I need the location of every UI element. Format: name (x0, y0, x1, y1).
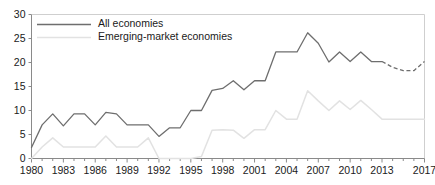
data-series-layer (32, 33, 425, 159)
series-line-all-economies-forecast (382, 62, 424, 71)
x-axis-ticks: 1980198319861989199219951998200120042007… (20, 159, 435, 176)
x-tick-label: 1998 (211, 164, 235, 176)
y-tick-label: 0 (20, 152, 26, 164)
x-tick-label: 1992 (147, 164, 171, 176)
x-tick-label: 1995 (179, 164, 203, 176)
x-tick-label: 2010 (338, 164, 362, 176)
y-tick-label: 5 (20, 128, 26, 140)
x-tick-label: 2004 (275, 164, 299, 176)
chart-legend: All economiesEmerging-market economies (37, 17, 232, 42)
x-tick-label: 1980 (20, 164, 44, 176)
legend-label-emerging-market-economies: Emerging-market economies (98, 30, 232, 42)
x-tick-label: 2017 (413, 164, 435, 176)
x-tick-label: 2001 (243, 164, 267, 176)
y-tick-label: 20 (14, 56, 26, 68)
x-tick-label: 1983 (52, 164, 76, 176)
series-line-all-economies-actual (32, 33, 383, 148)
series-line-emerging-market-economies (32, 91, 425, 159)
y-tick-label: 25 (14, 32, 26, 44)
x-tick-label: 1986 (84, 164, 108, 176)
x-tick-label: 2013 (370, 164, 394, 176)
y-tick-label: 30 (14, 8, 26, 20)
y-tick-label: 15 (14, 80, 26, 92)
x-tick-label: 2007 (307, 164, 331, 176)
y-tick-label: 10 (14, 104, 26, 116)
legend-label-all-economies: All economies (98, 17, 163, 29)
x-tick-label: 1989 (115, 164, 139, 176)
line-chart: 051015202530 198019831986198919921995199… (0, 0, 435, 185)
chart-container: 051015202530 198019831986198919921995199… (0, 0, 435, 185)
y-axis-ticks: 051015202530 (14, 8, 32, 164)
